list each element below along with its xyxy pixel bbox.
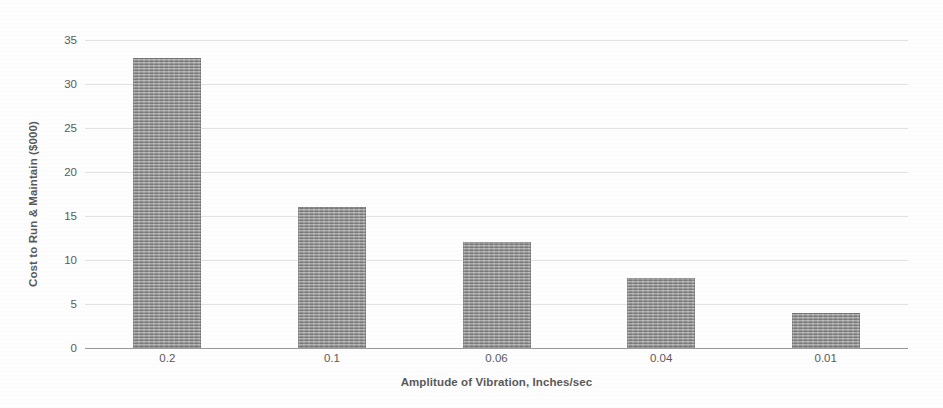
y-tick-label: 15 bbox=[43, 210, 77, 222]
bar bbox=[463, 242, 531, 348]
y-tick-label: 30 bbox=[43, 78, 77, 90]
x-tick-label: 0.2 bbox=[159, 352, 175, 364]
axis-baseline bbox=[85, 348, 908, 349]
bar-series bbox=[85, 40, 908, 348]
y-tick-label: 0 bbox=[43, 342, 77, 354]
x-tick-label: 0.04 bbox=[650, 352, 672, 364]
y-tick-label: 25 bbox=[43, 122, 77, 134]
bar bbox=[792, 313, 860, 348]
bar bbox=[627, 278, 695, 348]
x-tick-label: 0.06 bbox=[485, 352, 507, 364]
x-tick-label: 0.01 bbox=[814, 352, 836, 364]
y-tick-label: 35 bbox=[43, 34, 77, 46]
y-tick-label: 20 bbox=[43, 166, 77, 178]
x-axis-tick-labels: 0.20.10.060.040.01 bbox=[85, 352, 908, 374]
bar-chart-figure: Cost to Run & Maintain ($000) 0510152025… bbox=[0, 0, 943, 408]
x-tick-label: 0.1 bbox=[324, 352, 340, 364]
x-axis-title: Amplitude of Vibration, Inches/sec bbox=[85, 376, 908, 388]
bar bbox=[133, 58, 201, 348]
y-tick-label: 5 bbox=[43, 298, 77, 310]
y-tick-label: 10 bbox=[43, 254, 77, 266]
y-axis-tick-labels: 05101520253035 bbox=[37, 40, 77, 348]
bar bbox=[298, 207, 366, 348]
